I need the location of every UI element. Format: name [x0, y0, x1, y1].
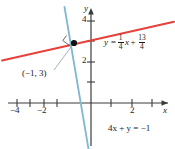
- equation-red-fraction-one: 1 4: [118, 34, 124, 51]
- x-tick-label--4: −4: [10, 106, 20, 115]
- x-axis-label: x: [163, 106, 167, 115]
- fraction-two-numerator: 13: [137, 34, 147, 42]
- equation-red-plus-operator: +: [131, 38, 136, 47]
- math-figure: −4 −2 2 4 2 x y (−1, 3) y = 1 4 x + 13 4…: [0, 0, 175, 149]
- equation-red-fraction-two: 13 4: [137, 34, 147, 51]
- line-red-equation: [2, 22, 174, 61]
- line-blue-equation: [65, 7, 89, 149]
- x-tick-label--2: −2: [37, 106, 47, 115]
- x-axis: [8, 100, 168, 106]
- y-tick-label-2: 2: [82, 56, 87, 65]
- y-tick-label-4: 4: [82, 15, 87, 24]
- fraction-one-denominator: 4: [118, 42, 124, 51]
- fraction-two-denominator: 4: [139, 42, 145, 51]
- y-axis-arrow: [88, 8, 94, 15]
- y-axis-label: y: [84, 4, 88, 13]
- fraction-one-numerator: 1: [118, 34, 124, 42]
- intersection-point-marker: [71, 40, 77, 46]
- equation-red-variable: x: [125, 38, 129, 47]
- equation-label-red: y = 1 4 x + 13 4: [104, 34, 147, 51]
- intersection-point-label: (−1, 3): [22, 69, 47, 78]
- equation-red-lhs: y =: [104, 38, 116, 47]
- x-tick-label-2: 2: [130, 106, 135, 115]
- y-axis: [88, 8, 94, 146]
- equation-label-blue: 4x + y = −1: [108, 124, 150, 133]
